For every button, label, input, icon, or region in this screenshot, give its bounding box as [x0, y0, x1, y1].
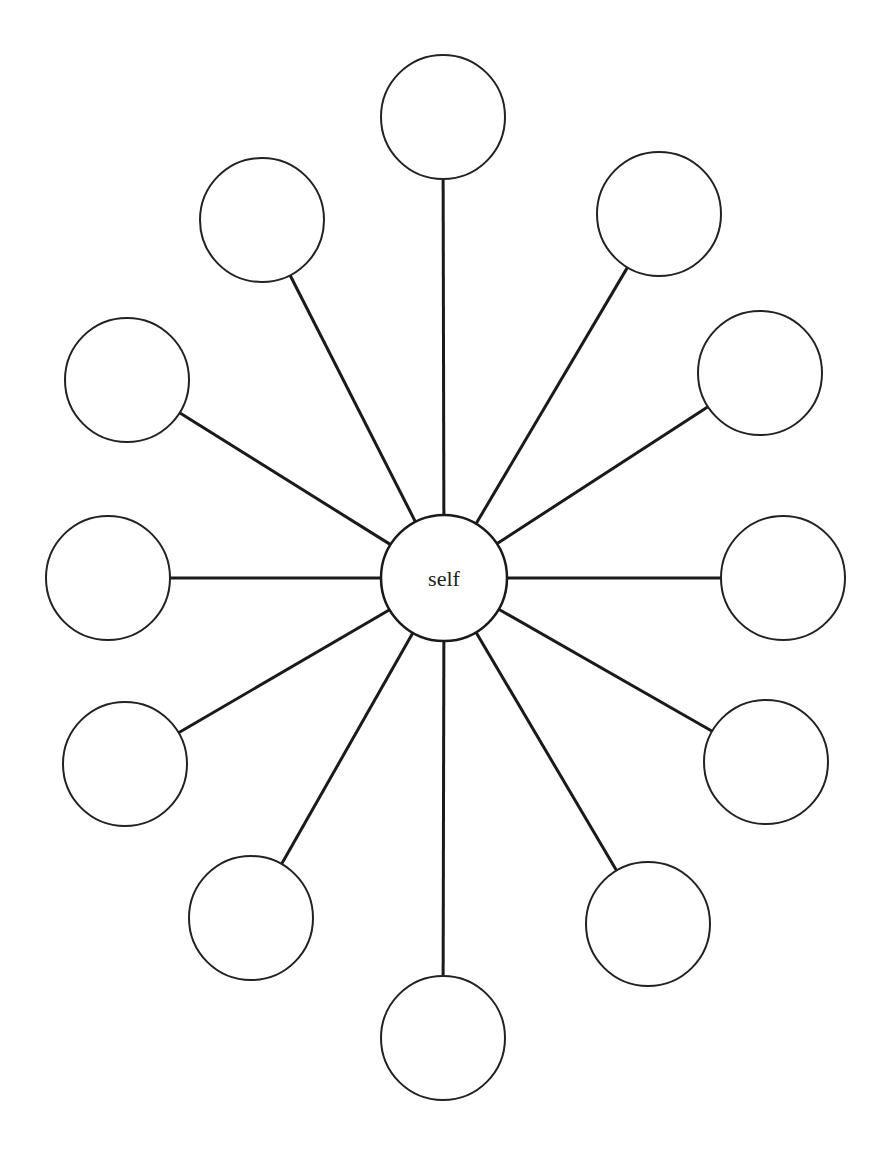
empty-node-circle	[704, 700, 828, 824]
outer-node-12	[200, 158, 324, 282]
outer-node-5	[704, 700, 828, 824]
empty-node-circle	[586, 862, 710, 986]
empty-node-circle	[200, 158, 324, 282]
outer-node-8	[189, 856, 313, 980]
empty-node-circle	[597, 152, 721, 276]
spoke-line	[290, 275, 415, 522]
spoke-line	[443, 179, 444, 515]
spoke-line	[180, 413, 391, 545]
center-node: self	[381, 515, 507, 641]
center-label: self	[428, 566, 460, 591]
spoke-line	[443, 641, 444, 976]
outer-node-4	[721, 516, 845, 640]
outer-node-10	[46, 516, 170, 640]
empty-node-circle	[381, 55, 505, 179]
outer-node-9	[63, 702, 187, 826]
empty-node-circle	[63, 702, 187, 826]
empty-node-circle	[698, 311, 822, 435]
empty-node-circle	[189, 856, 313, 980]
spoke-line	[476, 632, 617, 870]
outer-node-3	[698, 311, 822, 435]
spoke-line	[499, 609, 712, 731]
spoke-line	[476, 267, 627, 523]
outer-node-2	[597, 152, 721, 276]
self-relationship-diagram: self	[0, 0, 890, 1158]
spoke-line	[179, 610, 390, 733]
empty-node-circle	[46, 516, 170, 640]
empty-node-circle	[65, 318, 189, 442]
outer-node-6	[586, 862, 710, 986]
outer-node-11	[65, 318, 189, 442]
spoke-line	[282, 633, 413, 864]
empty-node-circle	[381, 976, 505, 1100]
spoke-line	[497, 407, 708, 544]
outer-node-7	[381, 976, 505, 1100]
empty-node-circle	[721, 516, 845, 640]
outer-node-1	[381, 55, 505, 179]
